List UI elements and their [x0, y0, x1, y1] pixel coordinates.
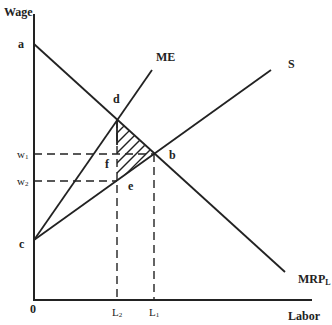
l2-label: L2 [112, 306, 123, 319]
point-c-label: c [19, 237, 25, 251]
l1-label: L1 [149, 306, 160, 319]
deadweight-loss-hatch [110, 115, 176, 200]
supply-label: S [288, 57, 295, 71]
monopsony-diagram: Wage Labor 0 ME S MRPL a d b f e c w1 w2… [0, 0, 332, 325]
y-axis-label: Wage [4, 5, 33, 19]
mrp-curve [34, 44, 285, 272]
point-d-label: d [113, 92, 120, 106]
supply-curve [34, 70, 271, 240]
point-f-label: f [105, 157, 110, 171]
me-label: ME [156, 50, 175, 64]
point-e-label: e [128, 179, 134, 193]
origin-label: 0 [30, 302, 36, 316]
point-b-label: b [169, 148, 176, 162]
w2-label: w2 [17, 175, 29, 188]
w1-label: w1 [17, 148, 29, 161]
x-axis-label: Labor [288, 309, 321, 323]
point-a-label: a [18, 37, 24, 51]
mrp-label: MRPL [298, 272, 331, 287]
